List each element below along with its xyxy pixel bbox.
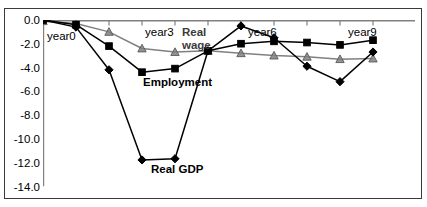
plot-area	[43, 20, 415, 187]
y-tick-label: 0.0	[0, 15, 40, 27]
y-axis-tick-labels: 0.0 -2.0 -4.0 -6.0 -8.0 -10.0 -12.0 -14.…	[0, 20, 40, 187]
y-tick-label: -12.0	[0, 158, 40, 170]
annotation-year9: year9	[348, 26, 377, 38]
annotation-year3: year3	[145, 26, 174, 38]
y-tick-label: -2.0	[0, 39, 40, 51]
data-point-square	[106, 43, 113, 50]
data-point-diamond	[171, 155, 179, 163]
data-point-square	[304, 39, 311, 46]
y-tick-label: -8.0	[0, 110, 40, 122]
annotation-real-wage-line2: wage	[182, 39, 211, 51]
data-point-square	[238, 40, 245, 47]
y-tick-label: -6.0	[0, 86, 40, 98]
annotation-year0: year0	[47, 30, 76, 42]
annotation-real-gdp: Real GDP	[151, 163, 203, 175]
chart-svg	[43, 20, 415, 187]
y-tick-label: -14.0	[0, 182, 40, 194]
annotation-year6: year6	[248, 26, 277, 38]
y-tick-label: -10.0	[0, 134, 40, 146]
annotation-real-wage-line1: Real	[182, 26, 206, 38]
chart-axes	[43, 20, 415, 186]
data-point-square	[337, 42, 344, 49]
data-point-diamond	[138, 156, 146, 164]
data-point-square	[172, 65, 179, 72]
chart-figure: 0.0 -2.0 -4.0 -6.0 -8.0 -10.0 -12.0 -14.…	[0, 0, 427, 207]
data-point-square	[139, 69, 146, 76]
annotation-employment: Employment	[143, 76, 212, 88]
y-tick-label: -4.0	[0, 63, 40, 75]
